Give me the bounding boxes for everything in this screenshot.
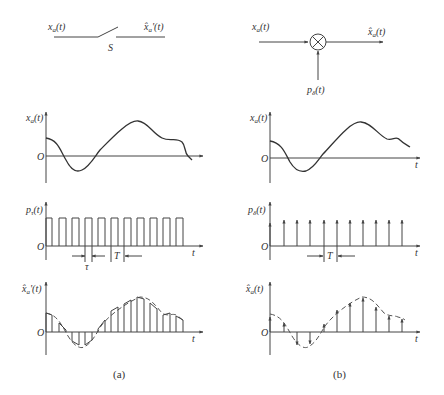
pulse-train [46,218,183,246]
xhat-ylabel: x̂a'(t) [21,283,42,296]
caption-b: (b) [333,368,346,381]
tau-label: τ [85,261,89,272]
origin-label: O [261,327,268,338]
origin-label: O [37,327,44,338]
xa-curve [46,121,192,171]
t-label: t [415,333,418,344]
t-label: t [415,159,418,170]
xa-ylabel: xa(t) [25,112,44,125]
panel-a-ptau-plot: pτ(t) O t τ T [25,202,203,272]
ptau-ylabel: pτ(t) [25,204,44,217]
caption-a: (a) [113,368,126,381]
panel-b-multiplier-block: xa(t) x̂a(t) pδ(t) [251,21,386,97]
switch-blade [98,27,118,37]
panel-b-xa-plot: xa(t) O t [249,112,420,183]
origin-label: O [261,153,268,164]
xa-ylabel: xa(t) [249,112,268,125]
origin-label: O [261,241,268,252]
multiplier-pdelta-label: pδ(t) [306,84,325,97]
switch-output-label: x̂a'(t) [143,21,164,34]
switch-input-label: xa(t) [47,21,66,34]
pam-pulses [46,297,183,345]
sampling-figure: xa(t) x̂a'(t) S xa(t) x̂a(t) pδ(t) xa(t)… [0,0,444,395]
period-label: T [114,250,121,261]
t-label: t [192,247,195,258]
panel-b-pdelta-plot: pδ(t) O t T [247,202,420,262]
panel-a-sampled-plot: x̂a'(t) O t (a) [21,282,203,381]
xhat-ylabel: x̂a(t) [245,283,264,296]
t-label: t [192,333,195,344]
origin-label: O [37,151,44,162]
pdelta-ylabel: pδ(t) [247,204,266,217]
impulse-train [270,220,402,246]
multiplier-output-label: x̂a(t) [367,26,386,39]
panel-a-switch-block: xa(t) x̂a'(t) S [47,21,165,53]
panel-b-sampled-plot: x̂a(t) O t (b) [245,282,420,381]
panel-a-xa-plot: xa(t) O [25,112,203,183]
t-label: t [415,247,418,258]
multiplier-input-label: xa(t) [251,21,270,34]
origin-label: O [37,241,44,252]
weighted-impulses [270,298,402,345]
switch-label-s: S [108,42,113,53]
period-label: T [327,250,334,261]
xa-curve [270,122,410,171]
